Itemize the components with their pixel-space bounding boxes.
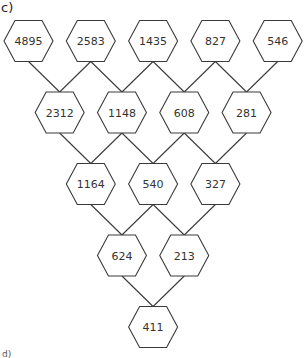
hexagon-node: 2312 [35, 92, 84, 133]
connector-line [29, 62, 60, 93]
hexagon-node: 411 [129, 307, 178, 348]
hexagon-node: 1164 [66, 164, 115, 205]
connector-line [184, 133, 215, 164]
connector-line [215, 62, 246, 93]
hexagon-node: 1435 [129, 21, 178, 62]
hexagon-value: 2583 [77, 35, 105, 48]
hexagon-node: 2583 [66, 21, 115, 62]
connector-line [122, 62, 153, 93]
connector-line [91, 62, 122, 93]
connector-line [153, 205, 184, 236]
hexagon-value: 608 [174, 107, 195, 120]
hexagon-value: 213 [174, 250, 195, 263]
part-label-c: c) [1, 0, 13, 15]
connector-line [153, 276, 184, 307]
hexagon-value: 411 [143, 321, 164, 334]
hexagon-value: 546 [267, 35, 288, 48]
connector-line [60, 62, 91, 93]
hexagon-node: 327 [191, 164, 240, 205]
hexagon-node: 213 [160, 235, 209, 276]
connector-line [122, 133, 153, 164]
connector-line [184, 205, 215, 236]
connector-line [247, 62, 278, 93]
hexagon-node: 827 [191, 21, 240, 62]
hexagon-value: 827 [205, 35, 226, 48]
hexagon-value: 540 [143, 178, 164, 191]
connector-line [91, 133, 122, 164]
connector-line [153, 133, 184, 164]
hexagon-pyramid-diagram: c) 4895258314358275462312114860828111645… [0, 0, 304, 358]
hexagon-value: 327 [205, 178, 226, 191]
hexagon-value: 2312 [46, 107, 74, 120]
hexagon-node: 281 [222, 92, 271, 133]
hexagon-node: 608 [160, 92, 209, 133]
hexagon-value: 1148 [108, 107, 136, 120]
hexagon-value: 1435 [139, 35, 167, 48]
connector-line [91, 205, 122, 236]
hexagon-node: 624 [97, 235, 146, 276]
hexagon-node: 4895 [4, 21, 53, 62]
hexagon-value: 281 [236, 107, 257, 120]
hexagon-node: 1148 [97, 92, 146, 133]
pyramid-svg: 4895258314358275462312114860828111645403… [0, 0, 304, 358]
hexagon-value: 624 [111, 250, 132, 263]
connector-line [122, 205, 153, 236]
connector-line [153, 62, 184, 93]
part-label-d: d) [2, 349, 11, 358]
hexagon-node: 546 [253, 21, 302, 62]
hexagon-node: 540 [129, 164, 178, 205]
connector-line [215, 133, 246, 164]
hexagon-value: 1164 [77, 178, 105, 191]
connector-line [122, 276, 153, 307]
connector-line [60, 133, 91, 164]
hexagon-value: 4895 [15, 35, 43, 48]
connector-line [184, 62, 215, 93]
